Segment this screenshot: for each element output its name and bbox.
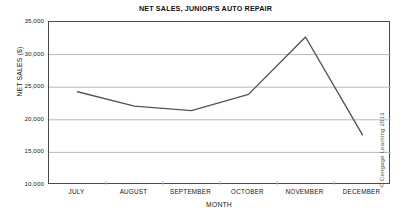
y-tick-label: 10,000 xyxy=(4,180,44,187)
y-axis-title: NET SALES ($) xyxy=(16,17,23,127)
chart-title: NET SALES, JUNIOR'S AUTO REPAIR xyxy=(0,4,411,13)
x-tick-label: JULY xyxy=(48,188,105,195)
copyright-credit: © Cengage Learning 2013 xyxy=(379,85,385,215)
plot-area xyxy=(48,21,390,184)
x-tick-label: SEPTEMBER xyxy=(162,188,219,195)
plot-svg xyxy=(49,22,391,185)
x-axis-ticks xyxy=(106,181,334,185)
y-tick-label: 25,000 xyxy=(4,82,44,89)
y-tick-label: 35,000 xyxy=(4,17,44,24)
line-chart-figure: NET SALES, JUNIOR'S AUTO REPAIR NET SALE… xyxy=(0,0,411,220)
y-tick-label: 20,000 xyxy=(4,115,44,122)
x-tick-label: AUGUST xyxy=(105,188,162,195)
x-axis-title: MONTH xyxy=(48,201,390,208)
x-tick-label: OCTOBER xyxy=(219,188,276,195)
gridlines xyxy=(49,55,391,153)
y-tick-label: 15,000 xyxy=(4,147,44,154)
y-tick-label: 30,000 xyxy=(4,50,44,57)
x-tick-label: NOVEMBER xyxy=(276,188,333,195)
